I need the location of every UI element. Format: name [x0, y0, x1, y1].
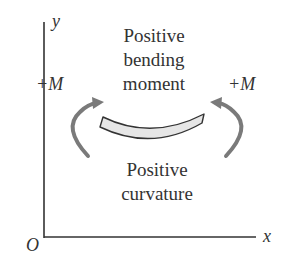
moment-right-label: +M [228, 74, 256, 94]
arrowhead-right-icon [210, 97, 222, 109]
bending-moment-diagram: y x O Positive bending moment +M +M Posi… [0, 0, 292, 265]
moment-arrow-right-icon [218, 103, 241, 156]
bending-moment-line1: Positive [123, 25, 184, 46]
curved-beam [100, 114, 204, 139]
moment-left-label: +M [36, 74, 64, 94]
moment-arrow-left-icon [73, 103, 97, 156]
curvature-line1: Positive [126, 159, 187, 180]
origin-label: O [26, 235, 39, 255]
curvature-line2: curvature [121, 183, 193, 204]
bending-moment-line2: bending [123, 49, 185, 70]
y-axis-label: y [50, 11, 60, 31]
bending-moment-line3: moment [123, 73, 186, 94]
arrowhead-left-icon [92, 97, 104, 109]
x-axis-label: x [262, 226, 271, 246]
